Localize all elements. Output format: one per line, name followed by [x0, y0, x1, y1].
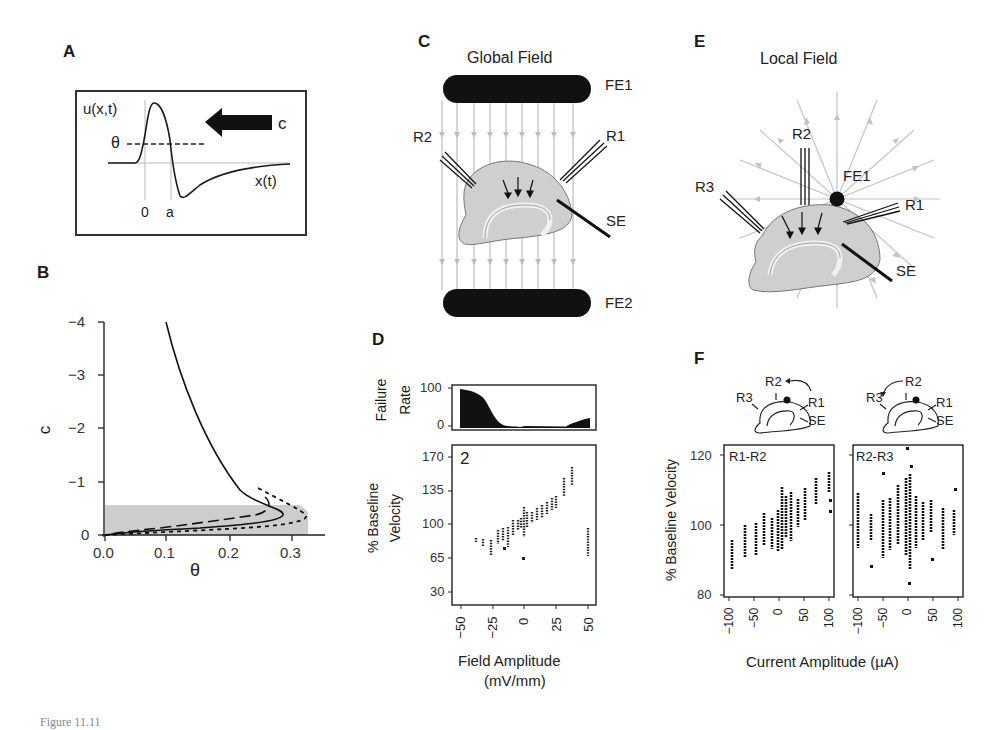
panel-e-title: Local Field — [760, 50, 837, 68]
panel-a-tick-0: 0 — [141, 204, 149, 220]
panel-e-se-label: SE — [896, 262, 916, 279]
panel-d-letter: D — [372, 330, 384, 350]
panel-a-letter: A — [63, 42, 75, 62]
panel-b-y-tick: −2 — [68, 419, 85, 436]
panel-d-failure-label: Failure — [373, 379, 389, 422]
panel-d-failure-label: Rate — [397, 385, 413, 415]
panel-f-x-tick: −50 — [876, 608, 890, 628]
panel-d-x-tick: 25 — [549, 617, 564, 631]
panel-f-schematic-right-se: SE — [936, 413, 953, 428]
panel-c-fe1-label: FE1 — [605, 76, 633, 93]
panel-f-x-tick: 50 — [926, 608, 940, 621]
panel-f-x-tick: 100 — [951, 608, 965, 628]
panel-e-letter: E — [694, 32, 705, 52]
panel-b-x-label: θ — [190, 560, 200, 581]
panel-f-schematic-right-r3: R3 — [866, 390, 883, 405]
panel-d-velocity-tick: 170 — [422, 449, 444, 464]
panel-c-fe2-label: FE2 — [605, 294, 633, 311]
panel-f-x-tick: 0 — [900, 609, 914, 616]
panel-d-velocity-tick: 135 — [422, 482, 444, 497]
panel-e-r3-label: R3 — [695, 178, 714, 195]
panel-d-x-tick: −50 — [453, 616, 468, 638]
panel-f-y-tick: 100 — [690, 518, 712, 533]
panel-e-fe1-label: FE1 — [843, 167, 871, 184]
panel-f-schematic-right-r2: R2 — [905, 374, 922, 389]
panel-b-y-label: c — [35, 426, 55, 435]
panel-d-failure-tick: 0 — [437, 417, 444, 432]
panel-f-y-label: % Baseline Velocity — [663, 459, 679, 581]
panel-f-left-title: R1-R2 — [729, 449, 767, 464]
panel-f-letter: F — [694, 349, 704, 369]
panel-f-right-title: R2-R3 — [856, 449, 894, 464]
panel-f-x-tick: −100 — [851, 607, 865, 634]
panel-b-x-tick: 0.1 — [154, 544, 175, 561]
panel-d-inset-number: 2 — [460, 449, 469, 469]
panel-d-x-tick: 50 — [581, 617, 596, 631]
panel-f-y-tick: 80 — [697, 587, 711, 602]
panel-c-letter: C — [418, 32, 430, 52]
panel-d-velocity-tick: 65 — [430, 550, 444, 565]
panel-f-schematic-left-r2: R2 — [765, 374, 782, 389]
panel-b-x-tick: 0.3 — [280, 544, 301, 561]
panel-a-threshold-label: θ — [111, 134, 120, 152]
panel-f-x-tick: 0 — [771, 609, 785, 616]
panel-d-velocity-tick: 100 — [422, 516, 444, 531]
panel-b-y-tick: −3 — [68, 366, 85, 383]
panel-c-r2-label: R2 — [413, 128, 432, 145]
figure-caption: Figure 11.11 — [40, 715, 100, 730]
panel-d-x-tick: −25 — [485, 616, 500, 638]
panel-f-x-tick: −100 — [722, 607, 736, 634]
panel-b-y-tick: −1 — [68, 473, 85, 490]
panel-a-speed-label: c — [278, 114, 287, 134]
panel-c-title: Global Field — [467, 49, 552, 67]
panel-e-r2-label: R2 — [792, 125, 811, 142]
panel-f-x-tick: 50 — [797, 608, 811, 621]
panel-b-y-tick: −4 — [68, 313, 85, 330]
panel-d-velocity-label: Velocity — [387, 494, 403, 542]
panel-c-r1-label: R1 — [606, 127, 625, 144]
panel-d-x-tick: 0 — [516, 618, 531, 625]
panel-f-schematic-right-r1: R1 — [936, 395, 953, 410]
panel-f-x-label: Current Amplitude (µA) — [746, 653, 899, 670]
panel-a-x-label: x(t) — [255, 172, 277, 189]
panel-f-x-tick: 100 — [822, 608, 836, 628]
panel-d-velocity-tick: 30 — [430, 584, 444, 599]
panel-b-x-tick: 0.2 — [218, 544, 239, 561]
panel-f-schematic-left-se: SE — [808, 413, 825, 428]
panel-f-schematic-left-r1: R1 — [808, 395, 825, 410]
panel-b-y-tick: 0 — [81, 526, 89, 543]
panel-a-y-label: u(x,t) — [83, 100, 117, 117]
panel-d-velocity-label: % Baseline — [365, 483, 381, 553]
panel-a-tick-a: a — [166, 204, 174, 220]
panel-d-x-label-units: (mV/mm) — [484, 672, 546, 689]
panel-f-y-tick: 120 — [690, 448, 712, 463]
panel-f-x-tick: −50 — [747, 608, 761, 628]
panel-d-failure-tick: 100 — [420, 380, 442, 395]
panel-c-se-label: SE — [606, 212, 626, 229]
panel-b-letter: B — [37, 263, 49, 283]
panel-d-x-label: Field Amplitude — [458, 652, 561, 669]
panel-b-x-tick: 0.0 — [93, 544, 114, 561]
panel-e-r1-label: R1 — [905, 196, 924, 213]
panel-f-schematic-left-r3: R3 — [736, 390, 753, 405]
